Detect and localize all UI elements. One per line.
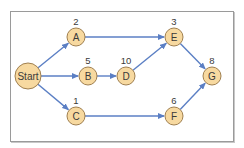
edge-start-to-c [38, 84, 68, 109]
edge-start-to-a [38, 43, 68, 67]
node-label: B [85, 71, 92, 82]
node-g: G8 [203, 55, 221, 85]
node-e: E3 [165, 16, 183, 46]
node-label: G [208, 71, 216, 82]
node-label: D [122, 71, 129, 82]
duration-label: 1 [73, 95, 78, 106]
node-f: F6 [165, 95, 183, 125]
node-b: B5 [79, 55, 97, 85]
edge-d-to-e [133, 43, 166, 70]
duration-label: 10 [121, 55, 132, 66]
node-label: F [171, 111, 177, 122]
duration-label: 3 [171, 16, 176, 27]
node-d: D10 [117, 55, 135, 85]
node-label: E [171, 32, 178, 43]
node-label: A [73, 32, 80, 43]
duration-label: 5 [85, 55, 90, 66]
duration-label: 2 [73, 16, 78, 27]
node-label: C [72, 111, 79, 122]
edge-f-to-g [180, 83, 205, 109]
duration-label: 6 [171, 95, 176, 106]
node-c: C1 [67, 95, 85, 125]
duration-label: 8 [209, 55, 214, 66]
nodes-group: StartA2B5C1D10E3F6G8 [15, 16, 221, 125]
node-a: A2 [67, 16, 85, 46]
node-start: Start [15, 63, 41, 89]
network-diagram: StartA2B5C1D10E3F6G8 [0, 0, 244, 148]
node-label: Start [17, 71, 38, 82]
edge-e-to-g [180, 43, 205, 68]
